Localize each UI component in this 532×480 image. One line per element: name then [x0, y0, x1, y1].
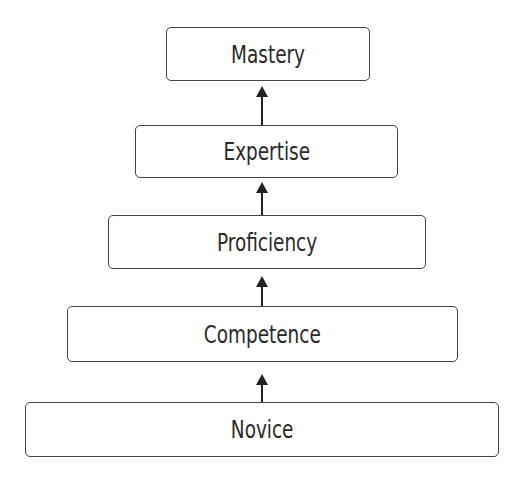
arrow-up-icon — [257, 86, 267, 125]
level-competence: Competence — [67, 306, 458, 362]
level-label: Competence — [204, 320, 321, 349]
level-label: Expertise — [223, 137, 310, 166]
arrow-up-icon — [257, 374, 267, 403]
level-expertise: Expertise — [135, 125, 398, 178]
level-label: Mastery — [231, 40, 305, 69]
arrow-up-icon — [257, 276, 267, 307]
arrow-up-icon — [257, 182, 267, 215]
level-novice: Novice — [25, 402, 499, 457]
level-mastery: Mastery — [166, 27, 370, 81]
level-proficiency: Proficiency — [108, 215, 426, 269]
level-label: Novice — [231, 415, 294, 444]
level-label: Proficiency — [217, 228, 317, 257]
